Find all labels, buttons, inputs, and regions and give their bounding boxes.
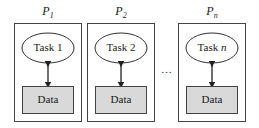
- processor-label-n: Pn: [192, 4, 232, 20]
- processor-box-n: [179, 24, 246, 122]
- task-label-2: Task 2: [95, 41, 147, 53]
- processor-label-1: P1: [28, 4, 68, 20]
- task-label-1: Task 1: [22, 41, 74, 53]
- ellipsis: …: [161, 63, 173, 75]
- data-label-1: Data: [22, 93, 74, 105]
- data-label-n: Data: [186, 93, 238, 105]
- processor-box-2: [88, 24, 155, 122]
- processor-box-1: [15, 24, 82, 122]
- task-label-n: Task n: [186, 41, 238, 53]
- processor-label-2: P2: [101, 4, 141, 20]
- data-label-2: Data: [95, 93, 147, 105]
